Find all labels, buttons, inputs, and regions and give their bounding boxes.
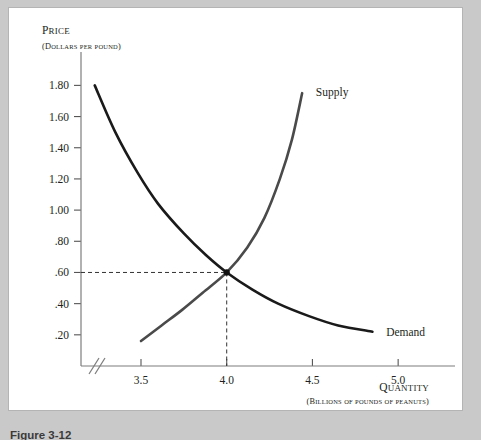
y-tick-label: .60 — [55, 266, 70, 278]
axis-titles: PRICE (DOLLARS PER POUND) QUANTITY (BILL… — [42, 24, 429, 406]
x-tick-label: 3.5 — [134, 374, 149, 386]
x-axis-subtitle: (BILLIONS OF POUNDS OF PEANUTS) — [307, 397, 429, 406]
y-axis-tick-group: .20.40.60.801.001.201.401.601.80 — [49, 79, 81, 340]
y-tick-label: 1.60 — [49, 111, 69, 123]
curve-group — [95, 85, 373, 341]
figure-caption: Figure 3-12 — [10, 429, 210, 440]
curve-label-group: SupplyDemand — [316, 86, 425, 338]
y-tick-label: .40 — [55, 298, 70, 310]
equilibrium-guide-lines — [81, 272, 227, 366]
figure-frame: PRICE (DOLLARS PER POUND) QUANTITY (BILL… — [8, 7, 463, 411]
x-tick-label: 4.5 — [305, 374, 320, 386]
supply-curve-label: Supply — [316, 86, 349, 99]
x-tick-label: 5.0 — [391, 374, 406, 386]
supply-demand-chart: PRICE (DOLLARS PER POUND) QUANTITY (BILL… — [9, 8, 462, 410]
y-tick-label: 1.40 — [49, 142, 69, 154]
x-axis-tick-group: 3.54.04.55.0 — [134, 359, 406, 386]
demand-curve-label: Demand — [386, 326, 425, 338]
y-tick-label: 1.00 — [49, 204, 69, 216]
x-tick-label: 4.0 — [220, 374, 235, 386]
equilibrium-dot — [224, 269, 230, 275]
y-tick-label: .20 — [55, 329, 70, 341]
y-tick-label: .80 — [55, 235, 70, 247]
y-tick-label: 1.80 — [49, 79, 69, 91]
y-axis-title: PRICE — [42, 24, 70, 36]
demand-curve — [95, 85, 373, 331]
equilibrium-point-marker — [224, 269, 230, 275]
y-axis-subtitle: (DOLLARS PER POUND) — [42, 42, 121, 51]
y-tick-label: 1.20 — [49, 173, 69, 185]
